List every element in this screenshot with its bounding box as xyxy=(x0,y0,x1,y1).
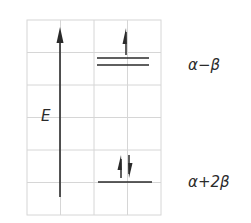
arrowhead-icon xyxy=(57,27,64,43)
level-label-upper: α−β xyxy=(188,56,220,74)
level-upper-degenerate xyxy=(97,58,149,65)
level-label-lower: α+2β xyxy=(188,173,230,191)
electron-spin-up-icon xyxy=(118,155,122,178)
electron-spin-down-icon xyxy=(128,155,132,178)
electron-spin-up-icon xyxy=(123,28,127,55)
energy-axis-label: E xyxy=(41,107,50,125)
